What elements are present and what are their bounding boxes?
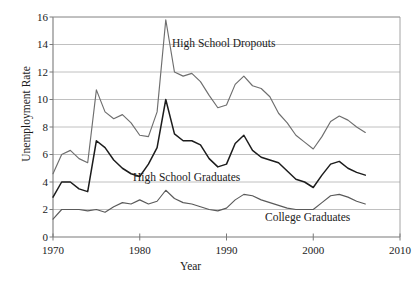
x-axis-title: Year [180,260,201,272]
x-tick-label-1970: 1970 [33,245,73,256]
y-tick-label-0: 0 [22,232,48,243]
series-label-high-school-graduates: High School Graduates [133,172,240,184]
unemployment-rate-line-chart: 0246810121416 19701980199020002010 Unemp… [0,0,419,282]
x-tick-label-1980: 1980 [120,245,160,256]
data-series [53,20,365,219]
series-label-high-school-dropouts: High School Dropouts [172,38,276,50]
y-tick-label-2: 2 [22,204,48,215]
y-tick-label-16: 16 [22,12,48,23]
x-tick-label-1990: 1990 [207,245,247,256]
axis-ticks [50,17,401,241]
y-axis-title: Unemployment Rate [20,44,32,184]
x-tick-label-2010: 2010 [380,245,419,256]
x-tick-label-2000: 2000 [293,245,333,256]
series-label-college-graduates: College Graduates [265,212,350,224]
